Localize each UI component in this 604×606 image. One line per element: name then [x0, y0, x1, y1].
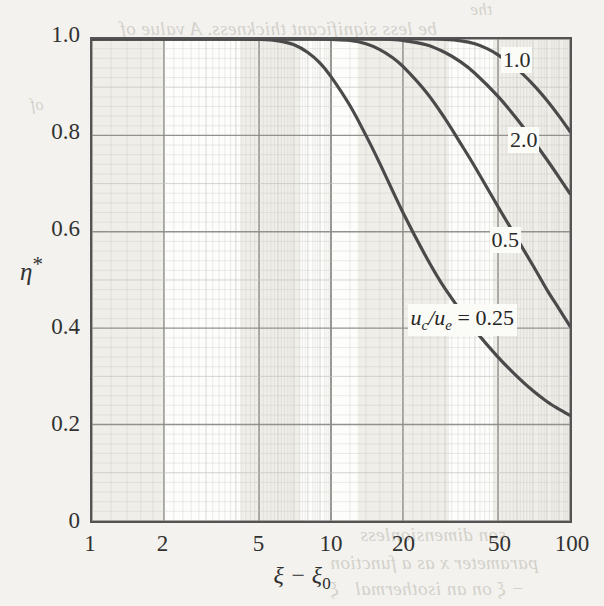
- ratio-subscript-e: e: [445, 318, 452, 334]
- y-tick-0.2: 0.2: [34, 411, 80, 437]
- x-axis-title: ξ − ξ0: [0, 562, 604, 594]
- showthrough-line: the: [470, 0, 492, 20]
- x-axis-title-subscript: 0: [322, 574, 331, 593]
- ratio-value: = 0.25: [452, 305, 514, 330]
- curve-2.0: [92, 39, 570, 132]
- y-tick-0.8: 0.8: [34, 119, 80, 145]
- showthrough-line: of: [30, 96, 43, 114]
- x-tick-10: 10: [301, 531, 361, 557]
- x-tick-2: 2: [133, 531, 193, 557]
- x-tick-5: 5: [228, 531, 288, 557]
- figure-container: be less significant thickness. A value o…: [0, 0, 604, 606]
- ratio-u-c: u: [411, 305, 422, 330]
- y-tick-0.4: 0.4: [34, 314, 80, 340]
- ratio-divider: /u: [428, 305, 445, 330]
- y-axis-title-star: *: [32, 252, 43, 276]
- curve-label-2.0: 2.0: [508, 127, 540, 153]
- x-tick-50: 50: [469, 531, 529, 557]
- x-tick-1: 1: [60, 531, 120, 557]
- y-axis-title-symbol: η: [20, 258, 32, 285]
- curve-label-1.0: 1.0: [501, 47, 533, 73]
- velocity-ratio-annotation: uc/ue = 0.25: [408, 304, 517, 335]
- x-tick-20: 20: [374, 531, 434, 557]
- y-axis-title: η*: [20, 252, 43, 286]
- curve-0.5: [92, 39, 570, 326]
- y-tick-0.6: 0.6: [34, 216, 80, 242]
- curve-layer: [92, 39, 570, 521]
- y-tick-1.0: 1.0: [34, 22, 80, 48]
- plot-area: 1.02.00.5uc/ue = 0.25: [90, 37, 572, 523]
- curve-label-0.5: 0.5: [490, 227, 522, 253]
- x-axis-title-main: ξ − ξ: [273, 562, 322, 588]
- curve-1.0: [92, 39, 570, 194]
- x-tick-100: 100: [542, 531, 602, 557]
